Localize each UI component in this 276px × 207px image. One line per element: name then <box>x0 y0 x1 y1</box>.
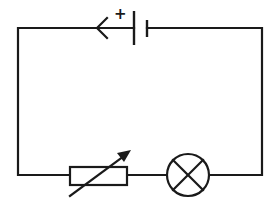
cell: + <box>114 5 147 45</box>
lamp <box>167 154 209 196</box>
wire-left <box>18 28 134 175</box>
variable-resistor <box>70 150 131 196</box>
wire-right <box>147 28 262 175</box>
cell-positive-label: + <box>114 5 127 23</box>
circuit-diagram: + <box>0 0 276 207</box>
circuit-wires <box>18 28 262 175</box>
